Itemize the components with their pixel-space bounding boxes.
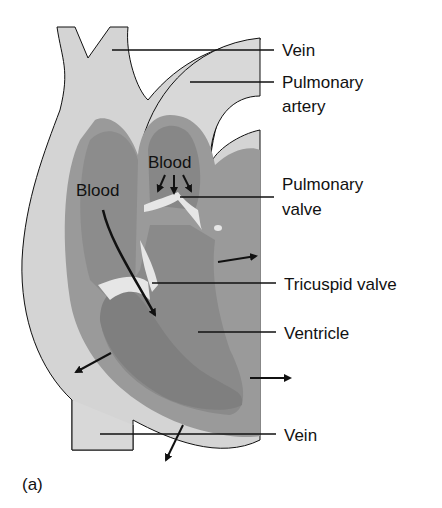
blood-label-top: Blood (148, 153, 191, 172)
small-highlight (214, 225, 222, 231)
label-pulmonary-valve-line2: valve (282, 200, 322, 219)
blood-label-left: Blood (76, 181, 119, 200)
figure-caption: (a) (22, 475, 43, 494)
label-pulmonary-artery-line2: artery (282, 97, 326, 116)
atrium-left (80, 131, 138, 300)
label-tricuspid-valve: Tricuspid valve (284, 275, 397, 294)
label-vein-bottom: Vein (284, 426, 317, 445)
label-vein-top: Vein (282, 41, 315, 60)
heart-diagram: Blood Blood Vein Pulmonary artery Pulmon… (0, 0, 442, 508)
label-ventricle: Ventricle (284, 324, 349, 343)
label-pulmonary-artery-line1: Pulmonary (282, 73, 364, 92)
label-pulmonary-valve-line1: Pulmonary (282, 175, 364, 194)
